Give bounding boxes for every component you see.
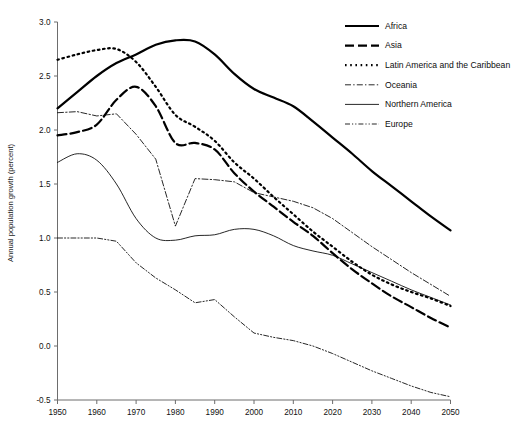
legend-label: Northern America	[385, 99, 452, 109]
y-tick-label: 1.0	[39, 234, 51, 243]
x-tick-label: 1950	[48, 408, 67, 417]
chart-legend: AfricaAsiaLatin America and the Caribbea…	[345, 21, 510, 129]
x-tick-label: 1970	[127, 408, 146, 417]
legend-label: Latin America and the Caribbean	[385, 60, 510, 70]
legend-label: Europe	[385, 119, 413, 129]
y-tick-label: 3.0	[39, 18, 51, 27]
x-tick-label: 2000	[245, 408, 264, 417]
x-tick-label: 2040	[402, 408, 421, 417]
x-tick-label: 1960	[88, 408, 107, 417]
y-tick-label: 0.0	[39, 342, 51, 351]
legend-item: Asia	[345, 40, 402, 50]
legend-item: Europe	[345, 119, 413, 129]
y-tick-label: 1.5	[39, 180, 51, 189]
y-tick-label: 2.5	[39, 72, 51, 81]
y-tick-label: 2.0	[39, 126, 51, 135]
x-tick-label: 1980	[166, 408, 185, 417]
legend-item: Northern America	[345, 99, 452, 109]
population-growth-line-chart: 3.02.52.01.51.00.50.0-0.5 19501960197019…	[0, 0, 517, 436]
chart-figure: 3.02.52.01.51.00.50.0-0.5 19501960197019…	[0, 0, 517, 436]
x-tick-label: 2050	[441, 408, 460, 417]
x-tick-label: 2030	[363, 408, 382, 417]
y-tick-label: 0.5	[39, 288, 51, 297]
legend-label: Oceania	[385, 80, 417, 90]
legend-label: Asia	[385, 40, 402, 50]
series-line-northern-america	[58, 154, 451, 305]
series-line-europe	[58, 238, 451, 397]
x-tick-label: 2020	[323, 408, 342, 417]
x-tick-label: 2010	[284, 408, 303, 417]
legend-label: Africa	[385, 21, 407, 31]
legend-item: Oceania	[345, 80, 417, 90]
legend-item: Africa	[345, 21, 407, 31]
x-axis: 1950196019701980199020002010202020302040…	[48, 400, 460, 417]
series-layer	[58, 40, 451, 397]
series-line-oceania	[58, 112, 451, 297]
legend-item: Latin America and the Caribbean	[345, 60, 510, 70]
y-axis: 3.02.52.01.51.00.50.0-0.5	[36, 18, 57, 405]
x-tick-label: 1990	[206, 408, 225, 417]
y-axis-title: Annual population growth (percent)	[6, 143, 15, 262]
y-tick-label: -0.5	[36, 396, 51, 405]
y-axis-title-text: Annual population growth (percent)	[6, 143, 15, 262]
